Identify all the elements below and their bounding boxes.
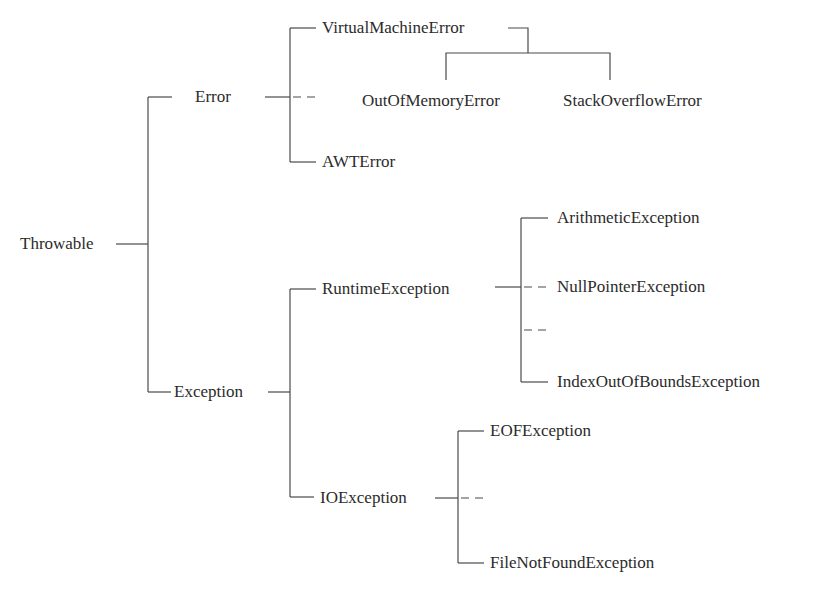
node-awt-error: AWTError [322, 152, 395, 172]
node-null-pointer-exception: NullPointerException [557, 277, 705, 297]
node-index-out-of-bounds-exception: IndexOutOfBoundsException [557, 372, 760, 392]
node-eof-exception: EOFException [490, 421, 591, 441]
node-io-exception: IOException [320, 488, 407, 508]
node-runtime-exception: RuntimeException [322, 279, 449, 299]
node-throwable: Throwable [20, 234, 94, 254]
node-out-of-memory-error: OutOfMemoryError [362, 91, 500, 111]
node-exception: Exception [174, 382, 243, 402]
node-stack-overflow-error: StackOverflowError [563, 91, 702, 111]
node-arithmetic-exception: ArithmeticException [557, 208, 700, 228]
connector-virtual-machine-error [508, 28, 528, 53]
node-error: Error [195, 87, 231, 107]
bracket-virtual-machine-error [446, 53, 610, 80]
node-file-not-found-exception: FileNotFoundException [490, 553, 654, 573]
node-virtual-machine-error: VirtualMachineError [322, 18, 464, 38]
exception-hierarchy-diagram: Throwable Error VirtualMachineError OutO… [0, 0, 832, 593]
